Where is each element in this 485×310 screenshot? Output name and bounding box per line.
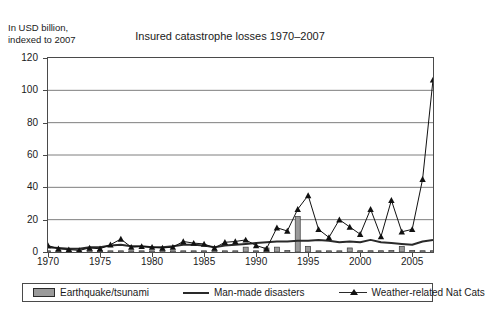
- bar: [368, 251, 373, 252]
- triangle-marker: [388, 197, 394, 203]
- bar-swatch-icon: [33, 288, 55, 297]
- bar: [420, 251, 425, 252]
- plot-area: [47, 57, 434, 253]
- bar: [243, 247, 248, 252]
- x-tick-mark: [308, 253, 309, 257]
- x-tick-mark: [204, 253, 205, 257]
- triangle-marker: [409, 226, 415, 232]
- bar: [254, 251, 259, 252]
- y-tick-label: 20: [4, 214, 38, 225]
- triangle-marker: [430, 77, 433, 83]
- x-tick-label: 1990: [236, 256, 276, 267]
- bar: [87, 251, 92, 252]
- bar: [181, 251, 186, 252]
- legend-item-3[interactable]: Weather-related Nat Cats: [305, 287, 485, 298]
- x-tick-label: 2005: [392, 256, 432, 267]
- bar: [306, 246, 311, 252]
- bar: [202, 251, 207, 252]
- triangle-marker: [243, 237, 249, 243]
- triangle-marker: [274, 225, 280, 231]
- bar: [389, 250, 394, 252]
- x-tick-label: 1995: [288, 256, 328, 267]
- man-made-line-path: [48, 240, 433, 249]
- x-tick-mark: [48, 253, 49, 257]
- legend-item-1[interactable]: Earthquake/tsunami: [23, 287, 149, 298]
- legend-label: Man-made disasters: [214, 287, 305, 298]
- x-tick-mark: [412, 253, 413, 257]
- bar: [347, 248, 352, 252]
- triangle-marker: [118, 236, 124, 242]
- bar: [150, 251, 155, 252]
- x-tick-label: 1985: [184, 256, 224, 267]
- legend-item-2[interactable]: Man-made disasters: [149, 287, 305, 298]
- bar: [212, 251, 217, 252]
- x-tick-mark: [256, 253, 257, 257]
- y-tick-label: 60: [4, 149, 38, 160]
- plot-svg: [48, 58, 433, 252]
- weather-related-nat-cats-line: [48, 77, 433, 252]
- x-tick-mark: [152, 253, 153, 257]
- weather-line-path: [48, 80, 433, 251]
- chart-legend: Earthquake/tsunamiMan-made disastersWeat…: [22, 283, 433, 302]
- bar: [285, 250, 290, 252]
- triangle-marker: [419, 176, 425, 182]
- y-tick-label: 120: [4, 52, 38, 63]
- line-triangle-swatch-icon: [339, 288, 367, 297]
- bar: [48, 251, 51, 252]
- line-swatch-icon: [183, 292, 209, 294]
- triangle-marker: [305, 192, 311, 198]
- triangle-marker: [347, 224, 353, 230]
- y-tick-label: 100: [4, 84, 38, 95]
- triangle-marker: [367, 206, 373, 212]
- bar: [129, 251, 134, 252]
- bar: [399, 246, 404, 252]
- bar: [378, 251, 383, 252]
- bar: [410, 250, 415, 252]
- bar: [160, 251, 165, 252]
- bar: [316, 251, 321, 252]
- legend-label: Weather-related Nat Cats: [372, 287, 485, 298]
- y-tick-label: 40: [4, 181, 38, 192]
- gridlines: [48, 90, 433, 219]
- bar: [191, 251, 196, 252]
- y-axis-caption: In USD billion, indexed to 2007: [8, 22, 76, 46]
- bar: [233, 251, 238, 252]
- x-tick-mark: [100, 253, 101, 257]
- legend-label: Earthquake/tsunami: [60, 287, 149, 298]
- bar: [295, 216, 300, 252]
- x-tick-label: 2000: [340, 256, 380, 267]
- bar: [326, 251, 331, 252]
- bar: [358, 251, 363, 252]
- x-tick-label: 1975: [80, 256, 120, 267]
- x-tick-label: 1980: [132, 256, 172, 267]
- triangle-marker: [180, 238, 186, 244]
- bar: [118, 251, 123, 252]
- y-tick-label: 80: [4, 117, 38, 128]
- bar: [139, 251, 144, 252]
- bar: [337, 251, 342, 252]
- bar: [274, 247, 279, 252]
- x-tick-label: 1970: [28, 256, 68, 267]
- triangle-marker: [357, 231, 363, 237]
- triangle-marker: [315, 226, 321, 232]
- bar: [108, 251, 113, 252]
- chart-title: Insured catastrophe losses 1970–2007: [95, 30, 365, 42]
- x-tick-mark: [360, 253, 361, 257]
- triangle-marker: [378, 233, 384, 239]
- man-made-disasters-line: [48, 240, 433, 249]
- bar: [170, 251, 175, 252]
- bar: [431, 251, 434, 252]
- bar: [222, 251, 227, 252]
